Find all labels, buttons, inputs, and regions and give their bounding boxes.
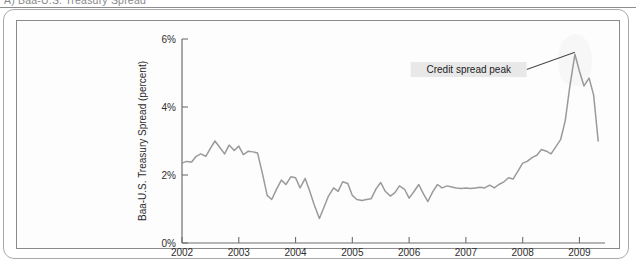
credit-spread-line-chart: 0%2%4%6% 2002200320042005200620072008200… [0, 0, 636, 271]
x-tick-label: 2006 [398, 247, 421, 258]
x-axis-ticks: 20022003200420052006200720082009 [171, 237, 591, 258]
annotation-label: Credit spread peak [426, 64, 511, 75]
annotation-leader-line [527, 52, 575, 69]
x-tick-label: 2009 [568, 247, 591, 258]
x-axis: 20022003200420052006200720082009 [171, 237, 605, 258]
x-tick-label: 2003 [228, 247, 251, 258]
x-tick-label: 2004 [284, 247, 307, 258]
x-tick-label: 2002 [171, 247, 194, 258]
y-tick-label: 2% [162, 170, 177, 181]
annotation-group: Credit spread peak [411, 52, 575, 77]
series-line-baa-u-s-treasury-spread [182, 54, 598, 218]
y-axis: 0%2%4%6% [162, 34, 188, 249]
data-series-group [182, 54, 598, 218]
x-tick-label: 2007 [455, 247, 478, 258]
x-tick-label: 2005 [341, 247, 364, 258]
y-tick-label: 6% [162, 34, 177, 45]
x-tick-label: 2008 [512, 247, 535, 258]
y-axis-title: Baa-U.S. Treasury Spread (percent) [137, 61, 148, 221]
y-tick-label: 4% [162, 102, 177, 113]
y-axis-ticks: 0%2%4%6% [162, 34, 188, 249]
